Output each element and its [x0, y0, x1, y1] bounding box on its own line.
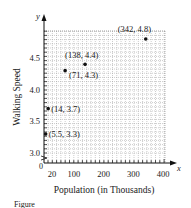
y-axis-letter: y [35, 11, 40, 21]
data-points: (5.5, 3.3)(14, 3.7)(71, 4.3)(138, 4.4)(3… [44, 24, 151, 139]
svg-text:4.0: 4.0 [29, 85, 40, 95]
grid [44, 31, 165, 163]
svg-text:300: 300 [127, 169, 140, 179]
figure-caption-fragment: Figure [14, 200, 35, 208]
x-axis-label: Population (in Thousands) [54, 185, 155, 196]
svg-text:(71, 4.3): (71, 4.3) [69, 70, 98, 80]
y-axis-label: Walking Speed [12, 68, 22, 126]
svg-text:4.5: 4.5 [29, 53, 40, 63]
svg-text:(14, 3.7): (14, 3.7) [51, 104, 80, 114]
svg-text:20: 20 [48, 169, 57, 179]
svg-text:100: 100 [67, 169, 80, 179]
svg-text:(5.5, 3.3): (5.5, 3.3) [49, 129, 80, 139]
svg-text:3.5: 3.5 [29, 116, 40, 126]
svg-text:3.0: 3.0 [29, 148, 40, 158]
svg-text:(342, 4.8): (342, 4.8) [118, 24, 151, 34]
x-axis-letter: x [176, 163, 181, 173]
svg-text:200: 200 [97, 169, 110, 179]
svg-text:(138, 4.4): (138, 4.4) [65, 50, 98, 60]
svg-text:400: 400 [157, 169, 170, 179]
origin-label: 0 [39, 162, 43, 171]
scatter-chart: 201002003004003.03.54.04.5 (5.5, 3.3)(14… [0, 0, 191, 208]
